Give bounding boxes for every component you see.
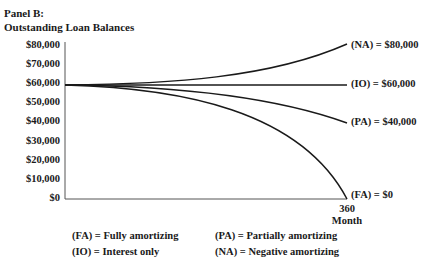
- end-label-na: (NA) = $80,000: [351, 39, 419, 50]
- series-na-line: [65, 44, 347, 85]
- end-label-io: (IO) = $60,000: [351, 78, 416, 89]
- legend-pa: (PA) = Partially amortizing: [215, 230, 337, 241]
- series-fa-line: [65, 85, 347, 199]
- x-tick-360: 360: [327, 203, 367, 214]
- legend-na: (NA) = Negative amortizing: [215, 246, 339, 257]
- legend-io: (IO) = Interest only: [72, 246, 159, 257]
- end-label-pa: (PA) = $40,000: [351, 116, 417, 127]
- end-label-fa: (FA) = $0: [351, 189, 393, 200]
- legend-fa: (FA) = Fully amortizing: [72, 230, 178, 241]
- x-axis-label: Month: [327, 215, 367, 226]
- series-pa-line: [65, 85, 347, 123]
